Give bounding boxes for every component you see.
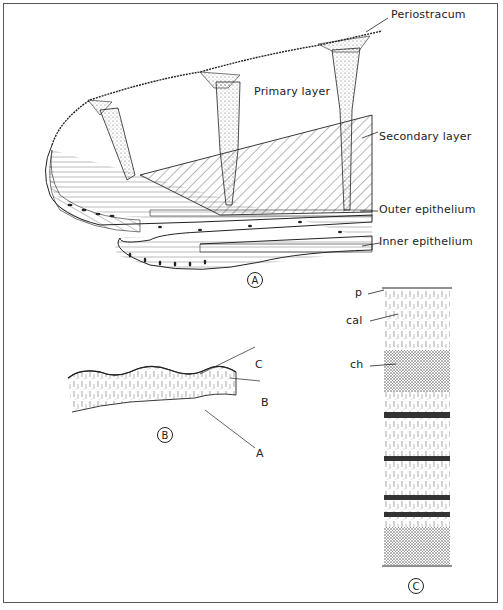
- figure-illustration: [0, 0, 503, 610]
- label-periostracum: Periostracum: [391, 8, 466, 21]
- panel-badge-b: B: [157, 427, 173, 443]
- label-outer-epithelium: Outer epithelium: [379, 203, 476, 216]
- panel-badge-a: A: [247, 272, 263, 288]
- label-c-cal: cal: [346, 314, 362, 327]
- label-c-ch: ch: [350, 358, 363, 371]
- label-primary-layer: Primary layer: [254, 85, 330, 98]
- label-b-a: A: [256, 447, 264, 460]
- label-b-b: B: [261, 396, 269, 409]
- panel-c-drawing: [368, 288, 452, 566]
- panel-badge-c: C: [408, 578, 424, 594]
- label-c-p: p: [355, 286, 362, 299]
- label-secondary-layer: Secondary layer: [379, 130, 471, 143]
- label-inner-epithelium: Inner epithelium: [379, 235, 473, 248]
- panel-a-drawing: [45, 18, 388, 270]
- label-b-c: C: [255, 358, 263, 371]
